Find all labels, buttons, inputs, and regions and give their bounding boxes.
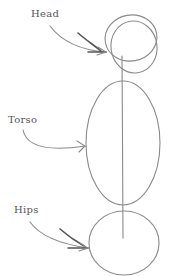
- hips-arrow: [30, 222, 88, 251]
- hips-label: Hips: [14, 204, 39, 215]
- sketch-canvas: Head Torso Hips: [0, 0, 170, 276]
- hips-shape: [89, 211, 159, 275]
- torso-label: Torso: [8, 114, 37, 125]
- head-label: Head: [31, 8, 59, 19]
- figure-sketch: [0, 0, 170, 276]
- head-shape: [101, 11, 160, 76]
- head-arrow: [50, 26, 106, 55]
- torso-arrow: [23, 130, 85, 152]
